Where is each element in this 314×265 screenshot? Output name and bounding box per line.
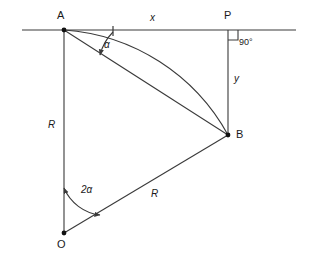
diagram-canvas <box>0 0 314 265</box>
segment-label-y: y <box>234 74 239 84</box>
point-a-dot <box>62 28 67 33</box>
segment-label-radius-oa: R <box>48 120 55 130</box>
point-label-a: A <box>57 10 64 21</box>
point-label-p: P <box>224 10 231 21</box>
geometry-diagram: A P B O x y R R α 2α 90° <box>0 0 314 265</box>
point-label-o: O <box>57 239 66 250</box>
angle-label-right-angle: 90° <box>239 38 253 47</box>
angle-label-alpha: α <box>104 40 110 50</box>
segment-label-radius-ob: R <box>151 189 158 199</box>
segment-label-x: x <box>150 13 155 23</box>
point-label-b: B <box>236 129 243 140</box>
chord-a-b-line <box>64 30 228 135</box>
point-o-dot <box>62 231 67 236</box>
angle-label-two-alpha: 2α <box>81 185 92 195</box>
point-b-dot <box>226 133 231 138</box>
right-angle-marker <box>228 30 238 40</box>
